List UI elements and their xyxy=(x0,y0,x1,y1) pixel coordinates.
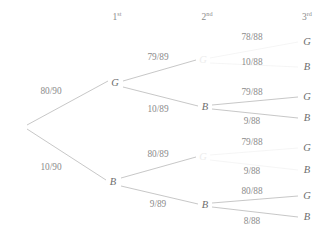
tree-edge-e-GG-G xyxy=(210,42,298,58)
stage-header-2: 2nd xyxy=(202,13,213,23)
stage-header-1: 1st xyxy=(113,13,122,23)
tree-node-n1G: G xyxy=(111,78,119,89)
tree-edge-e-GB-G xyxy=(212,97,298,105)
tree-outcome-o2: B xyxy=(304,62,310,73)
tree-node-n2BB: B xyxy=(202,200,208,211)
tree-node-n2GG: G xyxy=(199,55,207,66)
edge-probability-p-G-GG: 79/89 xyxy=(147,53,168,62)
edge-probability-p-BB-G: 80/88 xyxy=(241,187,262,196)
stage-header-ordinal-suffix: nd xyxy=(206,10,212,17)
tree-edge-e-BG-G xyxy=(210,148,298,155)
tree-node-n1B: B xyxy=(110,177,116,188)
tree-edge-e-G-GB xyxy=(123,87,198,106)
tree-edge-e-root-G xyxy=(27,81,108,125)
tree-outcome-o1: G xyxy=(303,37,311,48)
tree-edge-e-B-BG xyxy=(121,157,196,178)
edge-probability-p-GG-B: 10/88 xyxy=(241,58,262,67)
edge-probability-p-BG-B: 9/88 xyxy=(244,167,261,176)
edge-probability-p-GB-G: 79/88 xyxy=(241,88,262,97)
tree-outcome-o7: G xyxy=(303,191,311,202)
tree-node-n2BG: G xyxy=(199,152,207,163)
stage-header-ordinal-suffix: st xyxy=(117,10,121,17)
tree-outcome-o6: B xyxy=(304,165,310,176)
tree-outcome-o8: B xyxy=(304,212,310,223)
edge-probability-p-BG-G: 79/88 xyxy=(241,138,262,147)
edge-probability-p-G-GB: 10/89 xyxy=(147,105,168,114)
stage-header-ordinal-suffix: rd xyxy=(307,10,312,17)
tree-outcome-o5: G xyxy=(303,143,311,154)
tree-edge-e-BB-G xyxy=(212,196,298,203)
tree-outcome-o4: B xyxy=(304,113,310,124)
edge-probability-p-GB-B: 9/88 xyxy=(244,117,261,126)
edge-probability-p-BB-B: 8/88 xyxy=(244,217,261,226)
tree-outcome-o3: G xyxy=(303,92,311,103)
edge-probability-p-GG-G: 78/88 xyxy=(241,33,262,42)
probability-tree-diagram: 1st2nd3rd80/9010/9079/8910/8980/899/8978… xyxy=(0,0,327,238)
tree-edge-e-root-B xyxy=(27,129,106,180)
tree-edge-e-G-GG xyxy=(123,60,196,81)
edge-probability-p-root-B: 10/90 xyxy=(40,163,61,172)
edge-probability-p-B-BG: 80/89 xyxy=(147,150,168,159)
edge-probability-p-root-G: 80/90 xyxy=(40,87,61,96)
edge-probability-p-B-BB: 9/89 xyxy=(150,200,167,209)
stage-header-3: 3rd xyxy=(302,13,312,23)
tree-node-n2GB: B xyxy=(202,102,208,113)
